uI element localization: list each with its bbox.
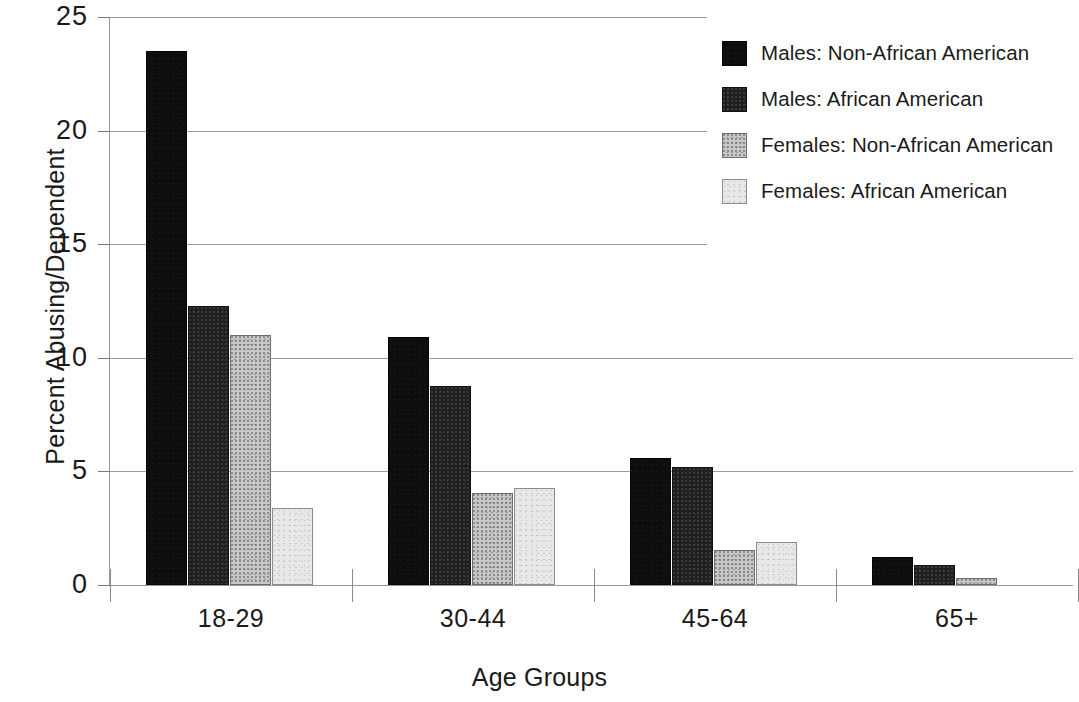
y-axis-tick-mark [98,244,110,245]
legend-item[interactable]: Males: African American [722,76,1072,122]
legend-swatch-icon [722,41,747,66]
y-axis-line [109,17,110,585]
y-axis-tick-label: 25 [28,3,88,30]
group-separator-tick [110,569,111,602]
y-axis-tick-label: 0 [28,571,88,598]
legend-swatch-icon [722,87,747,112]
y-axis-tick-mark [98,471,110,472]
bar-chart: Percent Abusing/Dependent 0510152025 18-… [0,0,1079,702]
bar [430,386,471,585]
bar [514,488,555,585]
x-axis-tick-label: 18-29 [110,604,352,633]
y-axis-tick-mark [98,358,110,359]
y-axis-tick-mark [98,131,110,132]
bar [146,51,187,585]
y-axis-tick-mark [98,585,110,586]
group-separator-tick [352,569,353,602]
legend-swatch-icon [722,179,747,204]
legend-label: Males: African American [761,87,983,111]
y-axis-tick-label: 5 [28,457,88,484]
bar [872,557,913,585]
gridline [110,17,707,18]
bar [272,508,313,585]
legend-label: Females: African American [761,179,1007,203]
y-axis-tick-label: 15 [28,230,88,257]
legend-item[interactable]: Females: Non-African American [722,122,1072,168]
bar [756,542,797,585]
x-axis-tick-label: 65+ [836,604,1078,633]
y-axis-tick-mark [98,17,110,18]
bar [230,335,271,585]
bar [472,493,513,585]
bar [630,458,671,585]
group-separator-tick [836,569,837,602]
legend-swatch-icon [722,133,747,158]
bar [956,578,997,585]
gridline [110,244,707,245]
gridline [110,131,707,132]
x-axis-title: Age Groups [0,663,1079,692]
bar [714,550,755,585]
legend-item[interactable]: Females: African American [722,168,1072,214]
legend-item[interactable]: Males: Non-African American [722,30,1072,76]
x-axis-tick-label: 45-64 [594,604,836,633]
gridline [110,585,1073,586]
x-axis-tick-label: 30-44 [352,604,594,633]
bar [188,306,229,585]
legend-label: Females: Non-African American [761,133,1053,157]
y-axis-tick-label: 10 [28,344,88,371]
legend-label: Males: Non-African American [761,41,1029,65]
bar [914,565,955,585]
legend: Males: Non-African AmericanMales: Africa… [722,30,1072,214]
bar [672,467,713,585]
bar [388,337,429,585]
y-axis-tick-label: 20 [28,117,88,144]
group-separator-tick [594,569,595,602]
